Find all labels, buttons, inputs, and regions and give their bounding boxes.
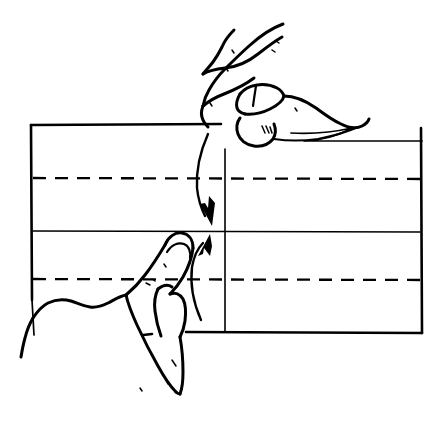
figure-background	[0, 0, 446, 423]
figure-canvas	[0, 0, 446, 423]
paper-right-edge	[421, 128, 422, 333]
paper-top-edge-left	[31, 124, 221, 125]
paper-bottom-edge-left-stub	[143, 334, 152, 335]
origami-figure: Paper folding step: fold top edge down t…	[0, 0, 446, 423]
center-solid-crease	[33, 231, 420, 232]
paper-bottom-edge-right	[186, 332, 422, 333]
paper-left-edge	[31, 125, 32, 300]
